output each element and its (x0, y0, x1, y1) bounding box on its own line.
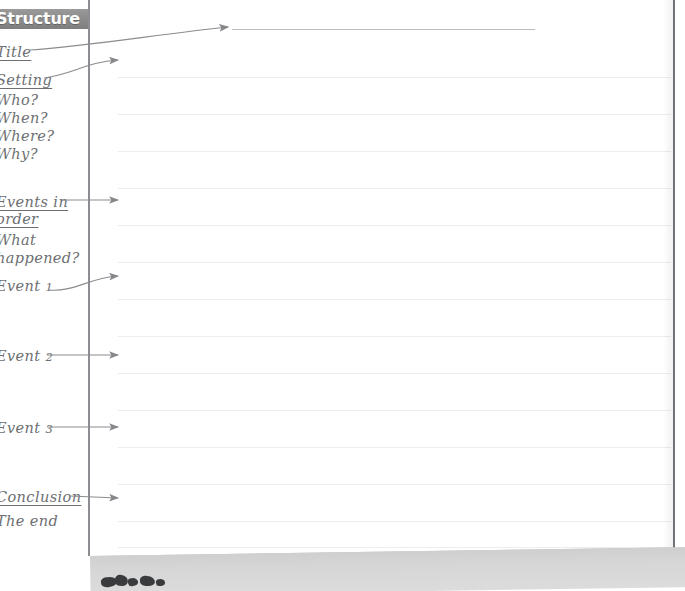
margin-note-event-1: Event 1 (0, 278, 53, 296)
ruled-line (118, 521, 671, 522)
margin-note-where: Where? (0, 128, 55, 145)
margin-note-index: 3 (46, 422, 54, 436)
margin-note-setting: Setting (0, 72, 52, 89)
ruled-line (118, 114, 671, 115)
ruled-line (118, 484, 671, 485)
page-bottom-white (0, 556, 90, 591)
page-edge-shadow (663, 0, 673, 575)
under-sheet-handwriting-smudge (99, 573, 177, 589)
ruled-line (118, 299, 671, 300)
ruled-line (118, 447, 671, 448)
margin-note-happened: happened? (0, 250, 80, 267)
under-sheet (90, 547, 685, 591)
worksheet-page: Structure TitleSettingWho?When?Where?Why… (0, 0, 685, 591)
structure-header-label: Structure (0, 8, 92, 29)
ruled-line (118, 77, 671, 78)
margin-note-the-end: The end (0, 513, 58, 530)
margin-note-why: Why? (0, 146, 38, 163)
ruled-line (118, 410, 671, 411)
margin-rule (88, 0, 90, 575)
ruled-line (118, 262, 671, 263)
margin-note-index: 1 (46, 280, 54, 294)
ruled-line (118, 373, 671, 374)
margin-note-events-in: Events in (0, 194, 68, 211)
margin-note-order: order (0, 211, 38, 228)
page-right-edge (673, 0, 675, 575)
ruled-line (118, 188, 671, 189)
title-writing-line (232, 29, 535, 30)
margin-note-title: Title (0, 44, 31, 61)
page-outside-area (676, 0, 685, 591)
margin-note-event-2: Event 2 (0, 348, 53, 366)
ruled-line (118, 151, 671, 152)
annotation-arrows (0, 0, 685, 591)
ruled-line (118, 225, 671, 226)
margin-note-conclusion: Conclusion (0, 489, 81, 506)
margin-note-what: What (0, 232, 36, 249)
margin-note-who: Who? (0, 92, 38, 109)
margin-note-index: 2 (46, 350, 54, 364)
margin-note-event-3: Event 3 (0, 420, 53, 438)
ruled-line (118, 336, 671, 337)
margin-note-when: When? (0, 110, 48, 127)
